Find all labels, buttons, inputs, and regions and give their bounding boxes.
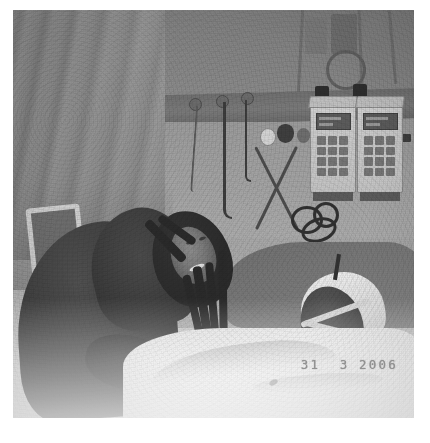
page-root: 31 3 2006	[0, 0, 430, 443]
gas-outlet	[260, 128, 276, 146]
gas-outlet	[297, 128, 310, 143]
pump-top-cap	[355, 96, 405, 108]
hair-braid	[218, 250, 227, 336]
pump-keypad	[317, 136, 348, 176]
gas-outlet	[277, 124, 294, 143]
iv-bag	[331, 14, 357, 54]
iv-bag	[365, 20, 383, 50]
pump-display	[363, 113, 398, 130]
pump-display	[316, 113, 351, 130]
pump-base	[360, 192, 400, 201]
pump-keypad	[364, 136, 395, 176]
camera-date-stamp: 31 3 2006	[301, 357, 398, 372]
infusion-pump	[310, 103, 356, 193]
pump-base	[313, 192, 353, 201]
coiled-tubing	[313, 202, 339, 228]
iv-bag	[305, 18, 327, 54]
pump-top-cap	[308, 96, 358, 108]
wall-cable	[223, 102, 232, 219]
infusion-pump	[357, 103, 403, 193]
wall-cable	[245, 100, 251, 182]
photograph: 31 3 2006	[13, 10, 414, 418]
